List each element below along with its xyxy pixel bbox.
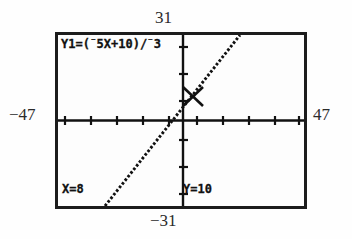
- x-max-label: 47: [313, 106, 330, 123]
- trace-x-value: 8: [76, 182, 83, 196]
- equation-prefix: Y1=(: [61, 37, 90, 51]
- equation-slope-term: 5X+10)/: [97, 37, 148, 51]
- trace-x-label: X=: [62, 182, 76, 196]
- equation-readout: Y1=(⁻5X+10)/⁻3: [61, 38, 161, 50]
- graph-svg: [58, 35, 304, 206]
- calculator-screenshot: 31 −31 −47 47: [0, 0, 352, 239]
- trace-y-label: Y=: [183, 182, 197, 196]
- equation-divisor: 3: [154, 37, 161, 51]
- negative-sign-icon: ⁻: [90, 35, 97, 48]
- y-max-label: 31: [155, 9, 172, 26]
- calculator-lcd-screen[interactable]: Y1=(⁻5X+10)/⁻3 X=8 Y=10: [55, 32, 307, 209]
- graph-plot-area[interactable]: [58, 35, 304, 206]
- y-min-label: −31: [150, 212, 177, 229]
- x-min-label: −47: [9, 106, 36, 123]
- trace-x-readout: X=8: [62, 183, 84, 195]
- trace-y-readout: Y=10: [183, 183, 212, 195]
- trace-y-value: 10: [197, 182, 211, 196]
- negative-sign-icon-2: ⁻: [147, 35, 154, 48]
- trace-cursor-crosshair: [183, 87, 203, 106]
